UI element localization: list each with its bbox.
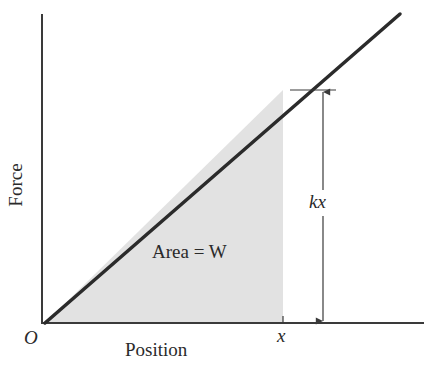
force-position-diagram <box>0 0 427 369</box>
area-label: Area = W <box>152 241 227 263</box>
kx-label: kx <box>309 191 326 213</box>
origin-label: O <box>24 327 38 349</box>
y-axis-label: Force <box>5 155 27 215</box>
shaded-area-region <box>45 90 283 323</box>
x-marker-label: x <box>277 325 285 347</box>
area-label-text: Area = W <box>152 241 227 262</box>
x-axis-label: Position <box>125 339 187 361</box>
